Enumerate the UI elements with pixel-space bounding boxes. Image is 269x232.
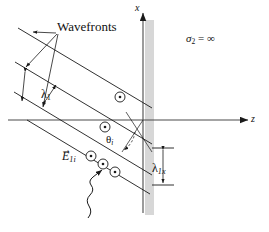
- lambda1x-label: λ1x: [152, 162, 166, 176]
- theta-subscript: i: [111, 138, 113, 147]
- wavy-propagation-arrow: [87, 177, 93, 218]
- lambda1-label: λ1: [41, 88, 51, 102]
- efield-subscript: 1i: [69, 155, 75, 164]
- sigma-value: ∞: [207, 32, 215, 44]
- vector-arrow-icon: →: [61, 145, 71, 155]
- physics-figure-oblique-incidence: Wavefronts x z σ2 = ∞ λ1 λ1x θi → E 1i: [0, 0, 269, 232]
- efield-vector-symbol: → E: [62, 150, 69, 162]
- circled-dot-marker-3: [86, 151, 96, 161]
- incident-efield-label: → E 1i: [62, 150, 76, 164]
- conductor-region-band: [145, 20, 154, 215]
- circled-dot-marker-1: [115, 92, 125, 102]
- circled-dot-marker-5: [110, 167, 120, 177]
- x-axis-label: x: [135, 3, 139, 13]
- lambda1-measure-bracket: [22, 72, 25, 101]
- wavefront-line-3: [14, 92, 152, 175]
- conductivity-label: σ2 = ∞: [186, 33, 215, 46]
- circled-dot-marker-2: [100, 122, 110, 132]
- wavefronts-leader-1: [33, 32, 56, 33]
- figure-canvas: [0, 0, 269, 232]
- lambda1-subscript: 1: [47, 93, 51, 102]
- wavefront-line-2: [15, 62, 152, 144]
- circled-dot-marker-4: [98, 159, 108, 169]
- lambda1x-subscript: 1x: [158, 167, 166, 176]
- sigma-subscript: 2: [191, 37, 195, 46]
- theta-i-label: θi: [106, 134, 113, 147]
- incidence-construction-line: [122, 120, 143, 152]
- wavefronts-label: Wavefronts: [57, 20, 117, 33]
- wavefront-line-1: [18, 28, 152, 108]
- wavy-propagation-arrow-head: [93, 170, 102, 177]
- z-axis-label: z: [251, 114, 255, 124]
- sigma-relation: =: [198, 32, 204, 44]
